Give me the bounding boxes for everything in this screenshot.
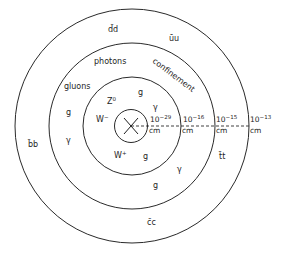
label-w-minus: W− [96,114,109,124]
label-cc: c̄c [147,218,156,227]
label-g-mid-bottom: g [153,181,158,190]
label-dd: d̄d [108,24,118,34]
label-photons: photons [94,57,126,66]
label-g-left: g [66,108,71,117]
svg-text:10−15: 10−15 [216,114,238,124]
label-gamma-mid-bottom: γ [177,165,182,174]
label-uu: ūu [169,34,179,43]
label-g-inner-top: g [138,88,143,97]
svg-text:10−16: 10−16 [183,114,205,124]
energy-scale-diagram: 10−29 cm 10−16 cm 10−15 cm 10−13 cm d̄d … [0,0,286,256]
svg-text:cm: cm [149,126,160,135]
label-tt: t̄t [218,151,225,161]
svg-text:cm: cm [250,126,261,135]
label-g-inner-bottom: g [143,152,148,161]
label-gluons: gluons [64,82,91,91]
label-z0: Z0 [107,96,116,106]
svg-text:10−29: 10−29 [150,114,172,124]
scale-label-electroweak: 10−16 cm [182,114,205,135]
svg-text:cm: cm [182,126,193,135]
label-gamma-left: γ [66,136,71,145]
label-w-plus: W+ [114,150,127,160]
svg-text:10−13: 10−13 [250,114,272,124]
label-bb: b̄b [27,139,38,149]
scale-label-innermost: 10−29 cm [149,114,172,135]
scale-label-confinement: 10−15 cm [216,114,238,135]
svg-text:cm: cm [216,126,227,135]
scale-label-outer: 10−13 cm [250,114,272,135]
label-gamma-inner-top: γ [153,103,158,112]
label-confinement: confinement [151,56,197,93]
